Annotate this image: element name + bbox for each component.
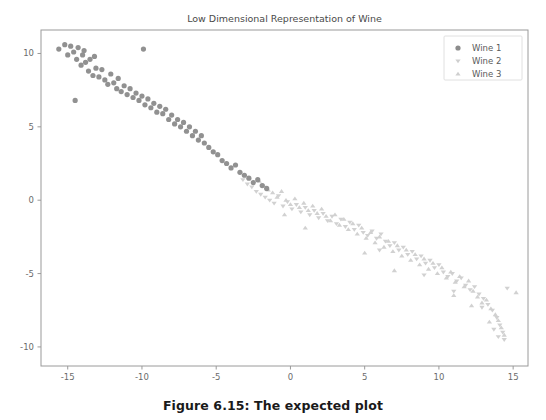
data-point xyxy=(323,214,328,218)
data-point xyxy=(423,262,428,266)
y-tick-label: -10 xyxy=(20,342,34,352)
data-point xyxy=(254,190,259,194)
data-point xyxy=(448,270,453,274)
data-point xyxy=(432,266,437,270)
legend-label-3: Wine 3 xyxy=(472,69,501,79)
data-point xyxy=(145,96,150,101)
data-point xyxy=(435,271,440,275)
data-point xyxy=(301,201,306,205)
data-point xyxy=(469,304,474,308)
data-point xyxy=(359,226,364,230)
data-point xyxy=(493,312,498,316)
data-point xyxy=(502,338,507,342)
data-point xyxy=(310,204,315,208)
y-tick-label: 5 xyxy=(29,122,34,132)
data-point xyxy=(56,46,61,51)
data-point xyxy=(166,117,171,122)
data-point xyxy=(430,261,435,265)
data-point xyxy=(92,54,97,59)
data-point xyxy=(175,117,180,122)
data-point xyxy=(399,254,404,258)
data-point xyxy=(116,76,121,81)
data-point xyxy=(74,57,79,62)
data-point xyxy=(303,206,308,210)
data-point xyxy=(73,98,78,103)
data-point xyxy=(485,303,490,307)
data-point xyxy=(86,68,91,73)
data-point xyxy=(83,60,88,65)
data-point xyxy=(421,257,426,261)
data-point xyxy=(245,183,250,187)
data-point xyxy=(451,290,456,294)
data-point xyxy=(119,89,124,94)
x-tick-label: -5 xyxy=(212,372,220,382)
x-tick-label: -15 xyxy=(61,372,75,382)
y-tick-label: -5 xyxy=(26,269,34,279)
data-point xyxy=(93,66,98,71)
data-point xyxy=(472,285,477,289)
data-point xyxy=(294,203,299,207)
data-point xyxy=(108,71,113,76)
figure-container: Low Dimensional Representation of Wine-1… xyxy=(0,0,546,420)
data-point xyxy=(361,231,366,235)
legend-marker-1 xyxy=(455,45,460,50)
data-point xyxy=(202,140,207,145)
data-point xyxy=(246,176,251,181)
data-point xyxy=(133,90,138,95)
data-point xyxy=(436,263,441,267)
data-point xyxy=(280,205,285,209)
data-point xyxy=(62,42,67,47)
data-point xyxy=(346,227,351,231)
figure-caption: Figure 6.15: The expected plot xyxy=(0,398,546,413)
data-point xyxy=(169,113,174,118)
data-point xyxy=(343,225,348,229)
data-point xyxy=(451,293,456,297)
data-point xyxy=(303,226,308,230)
data-point xyxy=(163,107,168,112)
data-point xyxy=(392,268,397,272)
y-tick-label: 0 xyxy=(29,195,34,205)
data-point xyxy=(466,279,471,283)
data-point xyxy=(414,257,419,261)
data-point xyxy=(381,245,386,249)
data-point xyxy=(479,306,484,310)
data-point xyxy=(395,243,400,247)
scatter-plot: Low Dimensional Representation of Wine-1… xyxy=(0,0,546,420)
data-point xyxy=(427,259,432,263)
data-point xyxy=(65,52,70,57)
data-point xyxy=(211,149,216,154)
data-point xyxy=(125,92,130,97)
data-point xyxy=(157,104,162,109)
data-point xyxy=(127,86,132,91)
legend-label-2: Wine 2 xyxy=(472,56,501,66)
data-point xyxy=(141,46,146,51)
data-point xyxy=(356,224,361,228)
data-point xyxy=(237,170,242,175)
data-point xyxy=(242,173,247,178)
data-point xyxy=(390,249,395,253)
plot-title: Low Dimensional Representation of Wine xyxy=(187,13,382,24)
data-point xyxy=(372,240,377,244)
y-tick-label: 10 xyxy=(23,48,34,58)
data-point xyxy=(184,129,189,134)
data-point xyxy=(178,124,183,129)
data-point xyxy=(220,158,225,163)
data-point xyxy=(215,152,220,157)
data-point xyxy=(408,258,413,262)
data-point xyxy=(130,95,135,100)
data-point xyxy=(421,274,426,278)
data-point xyxy=(488,306,493,310)
data-point xyxy=(68,44,73,49)
legend: Wine 1Wine 2Wine 3 xyxy=(444,36,522,80)
data-point xyxy=(288,202,293,206)
data-point xyxy=(457,274,462,278)
data-point xyxy=(105,82,110,87)
data-point xyxy=(426,267,431,271)
data-point xyxy=(136,98,141,103)
data-point xyxy=(315,211,320,215)
data-point xyxy=(264,186,269,191)
data-point xyxy=(513,290,518,294)
series-wine-2 xyxy=(240,178,510,342)
data-point xyxy=(263,196,268,200)
data-point xyxy=(387,244,392,248)
